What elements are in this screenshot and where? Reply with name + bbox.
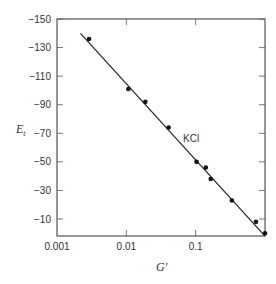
- data-point: [230, 198, 235, 203]
- y-tick-label: −110: [29, 71, 51, 82]
- series-label-kcl: KCl: [183, 133, 199, 144]
- fit-line: [80, 33, 265, 236]
- y-tick-label: −50: [34, 156, 51, 167]
- data-point: [263, 231, 268, 236]
- data-point: [194, 160, 199, 165]
- data-point: [208, 177, 213, 182]
- y-tick-labels: −150−130−110−90−70−50−30−10: [28, 14, 51, 225]
- x-tick-label: 0.01: [117, 241, 137, 252]
- x-axis-title: G': [156, 260, 168, 274]
- data-points: [87, 37, 268, 236]
- chart: −150−130−110−90−70−50−30−10 0.0010.010.1…: [0, 0, 276, 284]
- y-tick-label: −130: [28, 42, 51, 53]
- data-point: [254, 220, 259, 225]
- x-tick-labels: 0.0010.010.1: [44, 241, 203, 252]
- data-point: [126, 87, 131, 92]
- y-tick-label: −150: [28, 14, 51, 25]
- y-axis-title: Et: [15, 122, 26, 138]
- data-point: [87, 37, 92, 42]
- plot-frame: [57, 19, 265, 236]
- x-tick-label: 0.1: [189, 241, 203, 252]
- data-point: [203, 165, 208, 170]
- y-tick-label: −30: [34, 185, 51, 196]
- y-tick-label: −70: [34, 128, 51, 139]
- data-point: [166, 125, 171, 130]
- y-tick-label: −10: [34, 214, 51, 225]
- axis-ticks: [57, 19, 265, 236]
- data-point: [143, 100, 148, 105]
- y-tick-label: −90: [34, 99, 51, 110]
- x-tick-label: 0.001: [44, 241, 69, 252]
